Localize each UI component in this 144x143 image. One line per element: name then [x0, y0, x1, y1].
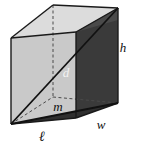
label-length: ℓ: [39, 129, 45, 143]
label-base-diagonal: m: [53, 99, 62, 114]
label-width: w: [97, 117, 106, 132]
label-height: h: [120, 40, 127, 55]
label-space-diagonal: d: [63, 65, 70, 80]
prism-diagram: h w ℓ d m: [0, 0, 144, 143]
prism-figure: h w ℓ d m: [0, 0, 144, 143]
